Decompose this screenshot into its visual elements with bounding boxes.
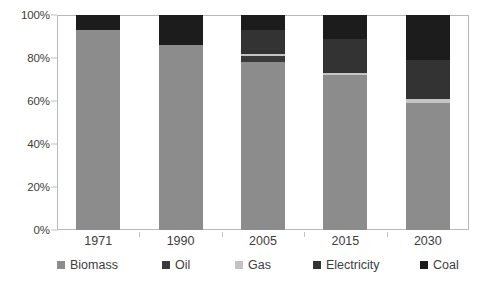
bar-segment[interactable] bbox=[323, 15, 367, 39]
bar-segment[interactable] bbox=[159, 15, 203, 45]
legend-label: Oil bbox=[175, 259, 190, 272]
bar-group[interactable] bbox=[76, 15, 120, 230]
legend-label: Gas bbox=[248, 259, 271, 272]
y-axis-tick-label: 80% bbox=[0, 52, 50, 64]
bar-group[interactable] bbox=[323, 15, 367, 230]
legend-swatch-icon bbox=[420, 261, 428, 269]
x-axis-tick-label: 2015 bbox=[304, 234, 386, 248]
bar-segment[interactable] bbox=[241, 15, 285, 30]
y-axis-tick-label: 60% bbox=[0, 95, 50, 107]
legend-label: Electricity bbox=[326, 259, 379, 272]
legend-item[interactable]: Electricity bbox=[313, 259, 379, 272]
legend-label: Coal bbox=[433, 259, 459, 272]
y-axis-tick-label: 0% bbox=[0, 224, 50, 236]
legend-item[interactable]: Oil bbox=[162, 259, 190, 272]
legend-swatch-icon bbox=[162, 261, 170, 269]
legend-item[interactable]: Coal bbox=[420, 259, 459, 272]
legend-swatch-icon bbox=[57, 261, 65, 269]
bar-group[interactable] bbox=[406, 15, 450, 230]
bar-segment[interactable] bbox=[241, 30, 285, 54]
x-axis-tick-mark bbox=[139, 232, 140, 237]
bar-stack bbox=[241, 15, 285, 230]
y-axis-tick-label: 100% bbox=[0, 9, 50, 21]
bar-segment[interactable] bbox=[159, 45, 203, 230]
bar-segment[interactable] bbox=[323, 39, 367, 73]
legend-label: Biomass bbox=[70, 259, 118, 272]
x-axis-tick-label: 2030 bbox=[387, 234, 469, 248]
y-axis-tick-label: 20% bbox=[0, 181, 50, 193]
legend-item[interactable]: Biomass bbox=[57, 259, 118, 272]
bars-layer bbox=[57, 15, 469, 230]
bar-stack bbox=[159, 15, 203, 230]
bar-stack bbox=[76, 15, 120, 230]
bar-stack bbox=[323, 15, 367, 230]
bar-segment[interactable] bbox=[323, 75, 367, 230]
bar-segment[interactable] bbox=[241, 62, 285, 230]
x-axis-tick-label: 2005 bbox=[222, 234, 304, 248]
x-axis: 19711990200520152030 bbox=[57, 232, 469, 254]
bar-segment[interactable] bbox=[76, 30, 120, 230]
bar-group[interactable] bbox=[241, 15, 285, 230]
chart-legend: BiomassOilGasElectricityCoal bbox=[57, 259, 477, 279]
x-axis-tick-mark bbox=[304, 232, 305, 237]
legend-item[interactable]: Gas bbox=[235, 259, 271, 272]
bar-segment[interactable] bbox=[406, 60, 450, 99]
bar-stack bbox=[406, 15, 450, 230]
bar-segment[interactable] bbox=[76, 15, 120, 30]
legend-swatch-icon bbox=[235, 261, 243, 269]
x-axis-tick-mark bbox=[222, 232, 223, 237]
x-axis-tick-label: 1990 bbox=[139, 234, 221, 248]
x-axis-tick-label: 1971 bbox=[57, 234, 139, 248]
bar-segment[interactable] bbox=[406, 103, 450, 230]
x-axis-tick-mark bbox=[387, 232, 388, 237]
bar-segment[interactable] bbox=[406, 15, 450, 60]
bar-group[interactable] bbox=[159, 15, 203, 230]
stacked-bar-chart: 0%20%40%60%80%100% 19711990200520152030 … bbox=[0, 0, 486, 292]
y-axis-tick-label: 40% bbox=[0, 138, 50, 150]
legend-swatch-icon bbox=[313, 261, 321, 269]
y-axis: 0%20%40%60%80%100% bbox=[0, 15, 50, 230]
